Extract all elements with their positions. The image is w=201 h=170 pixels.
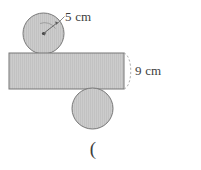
geometry-figure: 5 cm 9 cm ( [0, 0, 201, 170]
height-brace-arc [124, 53, 131, 89]
bottom-paren-label: ( [90, 138, 96, 160]
height-dimension-label: 9 cm [135, 63, 161, 78]
radius-dimension-label: 5 cm [65, 9, 91, 24]
figure-canvas: 5 cm 9 cm ( [0, 0, 201, 170]
bottom-circle [72, 88, 113, 129]
rectangle [9, 53, 124, 89]
